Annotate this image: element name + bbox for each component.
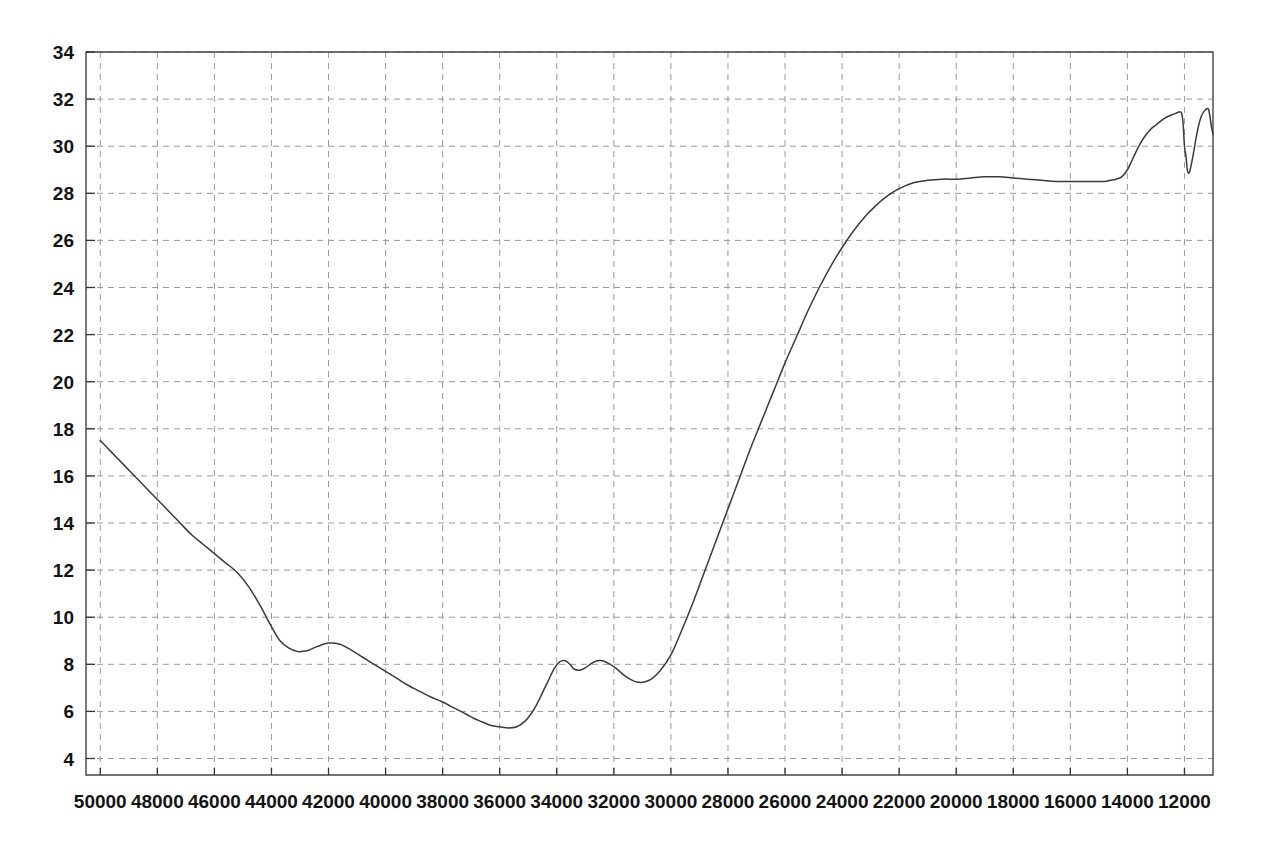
y-tick-label: 14 xyxy=(53,513,75,534)
x-tick-label: 38000 xyxy=(416,791,469,812)
line-chart: 5000048000460004400042000400003800036000… xyxy=(0,0,1267,844)
y-tick-label: 26 xyxy=(53,230,74,251)
x-tick-labels: 5000048000460004400042000400003800036000… xyxy=(74,791,1211,812)
x-tick-label: 30000 xyxy=(644,791,697,812)
x-gridlines xyxy=(100,52,1184,775)
plot-frame xyxy=(86,52,1213,775)
y-tick-label: 18 xyxy=(53,419,74,440)
x-tick-label: 48000 xyxy=(131,791,184,812)
x-tick-label: 42000 xyxy=(302,791,355,812)
x-tick-label: 34000 xyxy=(530,791,583,812)
x-tick-label: 16000 xyxy=(1044,791,1097,812)
x-tick-label: 50000 xyxy=(74,791,127,812)
y-tickmarks xyxy=(86,52,95,759)
y-tick-label: 6 xyxy=(63,701,74,722)
y-tick-label: 30 xyxy=(53,136,74,157)
y-tick-label: 24 xyxy=(53,278,75,299)
x-tick-label: 36000 xyxy=(473,791,526,812)
x-tick-label: 22000 xyxy=(873,791,926,812)
y-tick-label: 4 xyxy=(63,749,74,770)
y-tick-label: 34 xyxy=(53,42,75,63)
plot-box xyxy=(86,52,1213,775)
x-tick-label: 24000 xyxy=(816,791,869,812)
chart-container: 5000048000460004400042000400003800036000… xyxy=(0,0,1267,844)
y-tick-label: 10 xyxy=(53,607,74,628)
y-tick-label: 28 xyxy=(53,183,74,204)
x-tick-label: 32000 xyxy=(587,791,640,812)
x-tick-label: 20000 xyxy=(930,791,983,812)
x-tick-label: 44000 xyxy=(245,791,298,812)
y-tick-label: 12 xyxy=(53,560,74,581)
x-tick-label: 14000 xyxy=(1101,791,1154,812)
data-series-transmittance xyxy=(100,108,1213,728)
x-tick-label: 26000 xyxy=(759,791,812,812)
x-tickmarks xyxy=(100,768,1184,775)
y-gridlines xyxy=(86,52,1213,759)
y-tick-label: 16 xyxy=(53,466,74,487)
x-tick-label: 46000 xyxy=(188,791,241,812)
x-tick-label: 40000 xyxy=(359,791,412,812)
data-series-group xyxy=(100,108,1213,728)
y-tick-label: 8 xyxy=(63,654,74,675)
y-tick-labels: 46810121416182022242628303234 xyxy=(53,42,75,770)
x-tick-label: 12000 xyxy=(1158,791,1211,812)
y-tick-label: 20 xyxy=(53,372,74,393)
y-tick-label: 22 xyxy=(53,325,74,346)
y-tick-label: 32 xyxy=(53,89,74,110)
x-tick-label: 28000 xyxy=(702,791,755,812)
x-tick-label: 18000 xyxy=(987,791,1040,812)
